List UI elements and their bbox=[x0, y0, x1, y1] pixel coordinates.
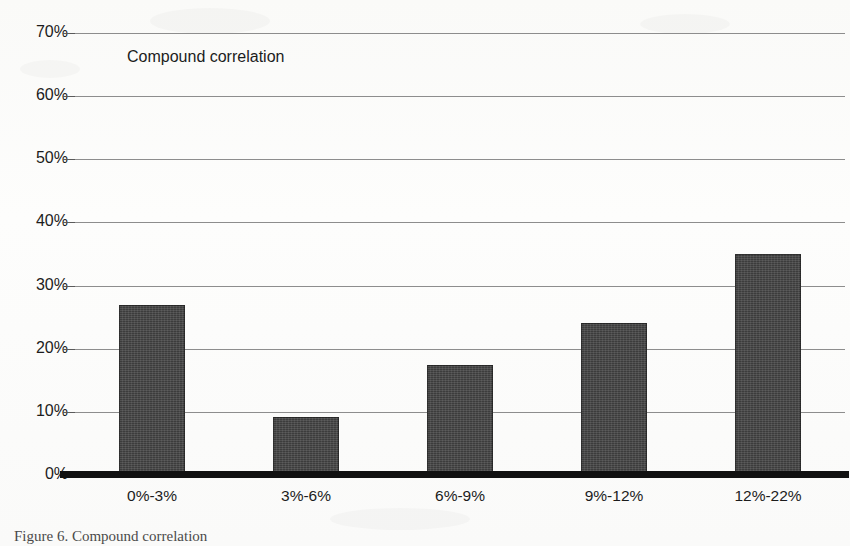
gridline-70% bbox=[75, 33, 845, 34]
y-tick-mark-20% bbox=[63, 349, 75, 350]
gridline-50% bbox=[75, 159, 845, 160]
bar-chart: 0%10%20%30%40%50%60%70% 0%-3%3%-6%6%-9%9… bbox=[0, 0, 850, 546]
y-tick-mark-10% bbox=[63, 412, 75, 413]
y-tick-mark-40% bbox=[63, 222, 75, 223]
y-tick-mark-60% bbox=[63, 96, 75, 97]
plot-area bbox=[75, 33, 845, 475]
x-axis-label-0%-3%: 0%-3% bbox=[75, 487, 229, 505]
bar-6%-9% bbox=[427, 365, 493, 476]
x-axis-label-3%-6%: 3%-6% bbox=[229, 487, 383, 505]
y-tick-label-60%: 60% bbox=[0, 86, 68, 104]
figure-caption: Figure 6. Compound correlation bbox=[14, 528, 207, 545]
y-tick-label-30%: 30% bbox=[0, 276, 68, 294]
bar-12%-22% bbox=[735, 254, 801, 475]
y-tick-label-50%: 50% bbox=[0, 149, 68, 167]
bar-3%-6% bbox=[273, 417, 339, 475]
gridline-30% bbox=[75, 286, 845, 287]
y-tick-label-70%: 70% bbox=[0, 23, 68, 41]
bar-9%-12% bbox=[581, 323, 647, 475]
y-tick-label-20%: 20% bbox=[0, 339, 68, 357]
y-tick-mark-50% bbox=[63, 159, 75, 160]
x-axis-line bbox=[60, 471, 849, 478]
y-tick-label-10%: 10% bbox=[0, 402, 68, 420]
gridline-60% bbox=[75, 96, 845, 97]
chart-title: Compound correlation bbox=[127, 48, 284, 66]
x-axis-label-12%-22%: 12%-22% bbox=[691, 487, 845, 505]
y-tick-label-40%: 40% bbox=[0, 212, 68, 230]
bar-0%-3% bbox=[119, 305, 185, 475]
y-tick-mark-70% bbox=[63, 33, 75, 34]
x-axis-label-9%-12%: 9%-12% bbox=[537, 487, 691, 505]
y-tick-label-0%: 0% bbox=[0, 465, 68, 483]
x-axis-label-6%-9%: 6%-9% bbox=[383, 487, 537, 505]
gridline-40% bbox=[75, 222, 845, 223]
gridline-20% bbox=[75, 349, 845, 350]
y-tick-mark-30% bbox=[63, 286, 75, 287]
